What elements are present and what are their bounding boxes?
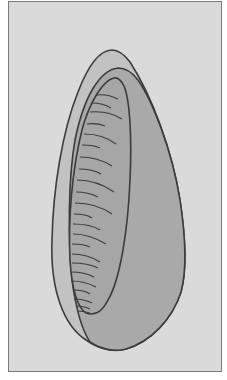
seed-illustration [0,0,227,380]
